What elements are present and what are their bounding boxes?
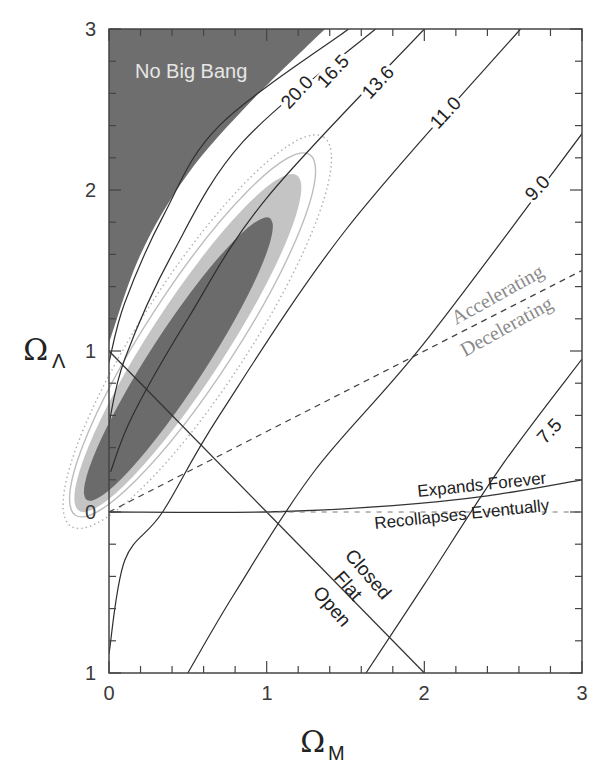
x-tick-label: 2 [418, 682, 429, 704]
y-tick-label: 3 [85, 18, 96, 40]
y-axis-subscript: Λ [52, 350, 66, 372]
x-tick-label: 1 [261, 682, 272, 704]
y-tick-label: 1 [85, 662, 96, 684]
x-axis-subscript: M [328, 742, 345, 764]
y-axis-title: Ω Λ [23, 332, 66, 372]
x-tick-labels: 0 1 2 3 [103, 682, 587, 704]
y-tick-labels: 1 0 1 2 3 [85, 18, 96, 684]
y-tick-label: 1 [85, 340, 96, 362]
y-axis-omega: Ω [23, 332, 48, 367]
recollapses-label: Recollapses Eventually [373, 496, 550, 533]
contour-label-7-5: 7.5 [533, 414, 566, 448]
x-axis-omega: Ω [300, 724, 325, 759]
confidence-contours [26, 108, 369, 556]
no-big-bang-label: No Big Bang [135, 60, 247, 82]
contour-label-9-0: 9.0 [521, 171, 554, 205]
x-tick-label: 3 [576, 682, 587, 704]
cosmology-chart: 0 1 2 3 1 0 1 2 3 Ω M Ω Λ No Big Bang 20… [0, 0, 611, 768]
y-tick-label: 2 [85, 179, 96, 201]
x-axis-title: Ω M [300, 724, 345, 764]
y-tick-label: 0 [85, 501, 96, 523]
x-tick-label: 0 [103, 682, 114, 704]
confidence-ellipse-68pct [63, 203, 293, 515]
